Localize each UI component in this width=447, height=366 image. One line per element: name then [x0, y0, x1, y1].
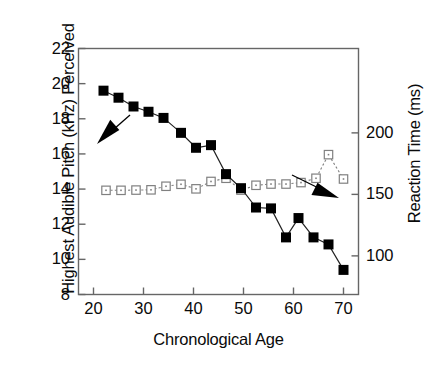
audible-pitch-marker [129, 101, 139, 111]
y-axis-ticks-right [352, 133, 359, 256]
reaction-time-marker-center [135, 189, 137, 191]
reaction-time-marker-center [300, 182, 302, 184]
audible-pitch-marker [144, 107, 154, 117]
reaction-time-marker-center [285, 183, 287, 185]
reaction-time-marker-center [328, 154, 330, 156]
audible-pitch-marker [339, 265, 349, 275]
reaction-time-marker-center [255, 184, 257, 186]
audible-pitch-marker [294, 213, 304, 223]
audible-pitch-marker [309, 232, 319, 242]
arrow-to-pitch-series-head [97, 120, 119, 144]
reaction-time-marker-center [315, 177, 317, 179]
reaction-time-marker-center [165, 185, 167, 187]
plot-area [0, 0, 447, 366]
audible-pitch-marker [266, 203, 276, 213]
audible-pitch-marker [281, 232, 291, 242]
axis-frame [79, 49, 359, 295]
reaction-time-marker-center [150, 189, 152, 191]
audible-pitch-marker [206, 140, 216, 150]
reaction-time-marker-center [120, 190, 122, 192]
figure-root: Highest Audible Pitch (kHz) Perceived Re… [0, 0, 447, 366]
reaction-time-marker-center [180, 183, 182, 185]
reaction-time-marker-center [195, 188, 197, 190]
audible-pitch-marker [99, 86, 109, 96]
audible-pitch-marker [191, 143, 201, 153]
audible-pitch-marker [324, 239, 334, 249]
audible-pitch-marker [236, 183, 246, 193]
reaction-time-marker-center [343, 178, 345, 180]
arrow-to-reaction-series-head [311, 183, 339, 198]
audible-pitch-marker [114, 93, 124, 103]
audible-pitch-marker [176, 128, 186, 138]
reaction-time-marker-center [105, 190, 107, 192]
audible-pitch-marker [159, 113, 169, 123]
x-axis-ticks [94, 288, 344, 295]
audible-pitch-marker [221, 169, 231, 179]
reaction-time-marker-center [270, 183, 272, 185]
reaction-time-marker-center [210, 181, 212, 183]
y-axis-ticks-left [79, 49, 86, 295]
audible-pitch-marker [251, 203, 261, 213]
